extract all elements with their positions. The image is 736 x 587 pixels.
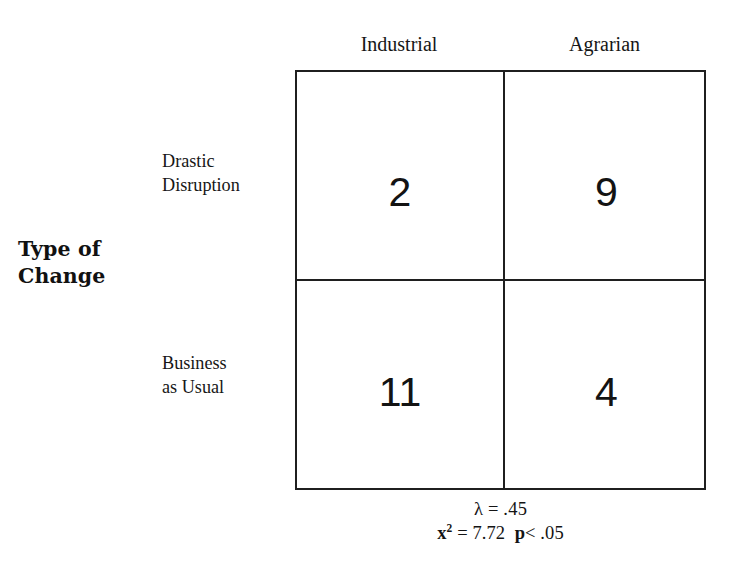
row-label-business-as-usual: Business as Usual xyxy=(162,352,284,399)
chi-square-statistic: x2 = 7.72 p< .05 xyxy=(295,521,706,545)
table-cell-value: 9 xyxy=(505,172,708,213)
row-label-drastic-disruption: Drastic Disruption xyxy=(162,150,284,197)
grid-divider-horizontal xyxy=(297,279,704,281)
table-cell-value: 2 xyxy=(297,172,503,213)
axis-title-line: Change xyxy=(18,263,178,290)
row-label-line: Drastic xyxy=(162,150,284,174)
table-cell-value: 4 xyxy=(505,372,708,413)
p-value: < .05 xyxy=(525,523,564,543)
row-label-line: as Usual xyxy=(162,376,284,400)
axis-title: Type of Change xyxy=(18,236,178,290)
statistics-note: λ = .45 x2 = 7.72 p< .05 xyxy=(295,497,706,546)
column-header-industrial: Industrial xyxy=(295,33,503,55)
chi-symbol: x xyxy=(437,523,446,543)
table-cell-value: 11 xyxy=(297,372,503,413)
chi-value: = 7.72 xyxy=(452,523,514,543)
lambda-statistic: λ = .45 xyxy=(295,497,706,521)
p-symbol: p xyxy=(515,523,525,543)
column-header-agrarian: Agrarian xyxy=(503,33,732,55)
axis-title-line: Type of xyxy=(18,236,178,263)
row-label-line: Business xyxy=(162,352,284,376)
row-label-line: Disruption xyxy=(162,174,284,198)
contingency-table-grid: 2 9 11 4 xyxy=(295,70,706,490)
